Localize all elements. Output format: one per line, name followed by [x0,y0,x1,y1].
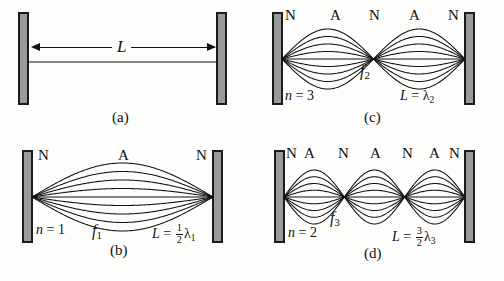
panel-a: L (a) [0,0,252,140]
length-lambda-d: λ [424,229,431,244]
length-fraction-b: 1 2 [176,223,183,245]
node-label-d-4: N [402,146,413,161]
node-label-c-4: N [448,8,459,23]
harmonic-equals-d: = [299,225,310,240]
panel-d: N A N A N A N f3 n = 2 L = 3 2 λ3 (d) [252,140,504,281]
length-lhs-c: L [400,88,408,103]
harmonic-value-c: 3 [307,88,314,103]
length-fraction-d: 3 2 [416,226,423,248]
length-lambda-b: λ [184,226,191,241]
node-label-b-0: N [38,148,49,163]
panel-tag-b: (b) [110,243,128,258]
panel-c: N A N A N f2 n = 3 L = λ2 (c) [252,0,504,140]
length-lhs-b: L [152,226,160,241]
length-eq-b: = [163,226,171,241]
standing-wave-figure: L (a) N A N n = 1 f1 L = 1 2 λ1 [0,0,504,281]
harmonic-equals-c: = [296,88,307,103]
length-lambda-sub-c: 2 [430,95,435,105]
length-eq-c: = [411,88,419,103]
panel-tag-d: (d) [364,246,382,261]
length-relation-d: L = 3 2 λ3 [392,226,435,248]
harmonic-label-b: n = 1 [36,223,65,237]
node-label-d-0: N [286,146,297,161]
frequency-sub-b: 1 [96,229,101,241]
node-label-d-2: N [338,146,349,161]
node-label-b-2: N [196,148,207,163]
harmonic-label-c: n = 3 [285,89,314,103]
length-lhs-d: L [392,229,400,244]
length-relation-c: L = λ2 [400,89,434,105]
harmonic-equals-b: = [47,222,58,237]
harmonic-value-d: 2 [310,225,317,240]
length-frac-den-d: 2 [416,238,423,249]
antinode-label-d-1: A [304,146,315,161]
length-lambda-sub-d: 3 [431,236,436,246]
antinode-label-d-3: A [370,146,381,161]
antinode-label-b-1: A [118,148,129,163]
length-eq-d: = [403,229,411,244]
harmonic-var-b: n [36,222,43,237]
antinode-label-d-5: A [429,146,440,161]
frequency-sub-d: 3 [334,216,339,228]
node-label-d-6: N [449,146,460,161]
frequency-sub-c: 2 [364,69,369,81]
length-frac-num-b: 1 [176,223,183,235]
length-frac-num-d: 3 [416,226,423,238]
node-label-c-0: N [285,8,296,23]
length-frac-den-b: 2 [176,235,183,246]
frequency-label-c: f2 [360,63,370,81]
frequency-label-d: f3 [330,210,340,228]
panel-b: N A N n = 1 f1 L = 1 2 λ1 (b) [0,140,252,281]
harmonic-var-c: n [285,88,292,103]
frequency-label-b: f1 [92,223,102,241]
antinode-label-c-3: A [409,8,420,23]
panel-tag-a: (a) [112,110,129,125]
harmonic-var-d: n [288,225,295,240]
length-relation-b: L = 1 2 λ1 [152,223,195,245]
node-label-c-2: N [369,8,380,23]
length-lambda-sub-b: 1 [191,233,196,243]
harmonic-label-d: n = 2 [288,226,317,240]
length-lambda-c: λ [423,88,430,103]
antinode-label-c-1: A [330,8,341,23]
harmonic-value-b: 1 [58,222,65,237]
panel-tag-c: (c) [364,110,381,125]
